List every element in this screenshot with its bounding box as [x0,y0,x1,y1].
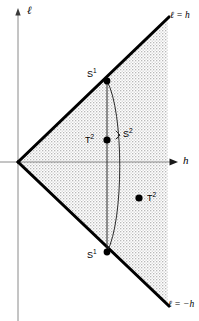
t2-on-chord-dot [103,136,110,143]
upper-boundary-label: ℓ = h [170,11,190,21]
vertical-axis-label: ℓ [27,5,32,16]
s1-upper-dot [104,78,111,85]
lower-boundary-label: ℓ = −h [168,300,194,310]
s2-brace-label-exponent: 2 [129,127,133,134]
s1-lower-dot [104,249,111,256]
horizontal-axis-label: h [183,155,189,166]
t2-on-chord-label-exponent: 2 [91,133,95,140]
s2-brace-label: S2 [123,128,133,139]
s1-lower-label-exponent: 1 [93,248,97,255]
t2-on-chord-label: T2 [85,134,94,145]
t2-interior-label: T2 [147,192,156,203]
s1-lower-label: S1 [87,249,97,260]
s1-upper-label: S1 [87,68,97,79]
s1-upper-label-exponent: 1 [93,67,97,74]
t2-interior-dot [135,194,142,201]
t2-interior-label-exponent: 2 [153,191,157,198]
diagram-canvas [0,0,199,321]
cone-diagram: ℓ h ℓ = h ℓ = −h S1 S1 T2 T2 S2 [0,0,199,321]
